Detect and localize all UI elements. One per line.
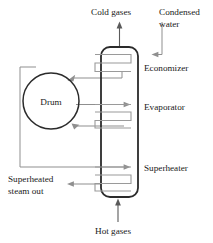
label-condensed-water-line2: water	[159, 19, 179, 29]
label-condensed-water-line1: Condensed	[159, 7, 200, 17]
label-drum: Drum	[40, 97, 61, 107]
hot-gases-arrow	[115, 199, 121, 223]
drum-to-superheater-line	[20, 67, 131, 170]
label-economizer: Economizer	[144, 63, 188, 73]
hrsg-schematic-svg: Cold gases Condensed water Economizer Ev…	[0, 0, 213, 243]
label-evaporator: Evaporator	[144, 102, 185, 112]
label-hot-gases: Hot gases	[95, 226, 131, 236]
cold-gases-arrow	[117, 22, 123, 48]
label-superheater: Superheater	[144, 163, 188, 173]
label-superheated-steam-line2: steam out	[8, 186, 44, 196]
economizer-to-drum-line	[68, 72, 123, 82]
hrsg-diagram: Cold gases Condensed water Economizer Ev…	[0, 0, 213, 243]
label-superheated-steam-line1: Superheated	[8, 174, 54, 184]
label-cold-gases: Cold gases	[91, 7, 131, 17]
